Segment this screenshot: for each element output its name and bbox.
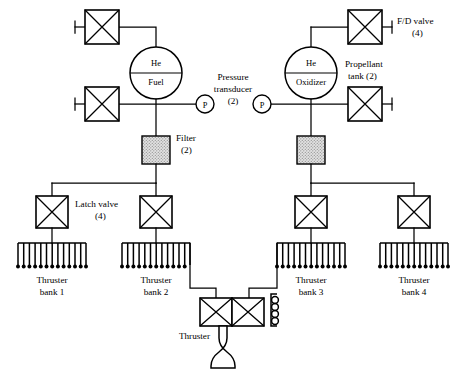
fuel-tank-propellant-label: Fuel [148,77,164,87]
fuel-tank-pressurant-label: He [151,58,161,68]
pressure-transducer-label-line1: Pressure [217,72,248,82]
latch-valve-4[interactable] [398,196,430,228]
fd-valve-label-line2: (4) [412,28,423,38]
fd-valve-oxidizer-top[interactable] [348,10,382,44]
propulsion-schematic-diagram: He Fuel P F/D valve (4) [0,0,467,376]
thruster-bank-3-label-line2: bank 3 [299,287,324,297]
latch-valve-1[interactable] [36,196,68,228]
oxidizer-tank[interactable]: He Oxidizer [285,47,337,99]
thruster-bank-3-label-line1: Thruster [295,275,326,285]
propellant-tank-label-line2: tank (2) [348,71,377,81]
thruster-bank-1-label-line2: bank 1 [40,287,65,297]
fuel-tank[interactable]: He Fuel [130,47,182,99]
thruster-label: Thruster [179,331,210,341]
pressure-transducer-fuel[interactable]: P [196,95,214,113]
pressure-transducer-symbol-left: P [203,101,208,110]
pressure-transducer-symbol-right: P [260,101,265,110]
schematic-canvas: He Fuel P F/D valve (4) [0,0,467,376]
filter-oxidizer[interactable] [297,136,325,164]
filter-fuel[interactable] [142,136,170,164]
oxidizer-tank-pressurant-label: He [306,58,316,68]
oxidizer-tank-propellant-label: Oxidizer [296,77,326,87]
fd-valve-oxidizer-mid[interactable] [348,87,382,121]
thruster-bank-1-label-line1: Thruster [36,275,67,285]
thruster-bank-2-label-line1: Thruster [140,275,171,285]
latch-valve-label-line2: (4) [95,211,106,221]
fd-valve-label-line1: F/D valve [397,16,434,26]
latch-valve-2[interactable] [140,196,172,228]
filter-label-line1: Filter [176,133,196,143]
thruster-bank-4-label-line1: Thruster [398,275,429,285]
thruster-bank-2-label-line2: bank 2 [144,287,169,297]
pressure-transducer-label-count: (2) [228,96,239,106]
propellant-tank-label-line1: Propellant [345,59,383,69]
fd-valve-fuel-top[interactable] [85,10,119,44]
pressure-transducer-oxidizer[interactable]: P [253,95,271,113]
latch-valve-3[interactable] [295,196,327,228]
thruster-bank-4-label-line2: bank 4 [402,287,427,297]
pressure-transducer-label-line2: transducer [214,84,252,94]
latch-valve-label-line1: Latch valve [75,199,118,209]
filter-label-line2: (2) [181,145,192,155]
fd-valve-fuel-mid[interactable] [85,87,119,121]
central-thruster-valve-pair[interactable] [200,298,264,326]
